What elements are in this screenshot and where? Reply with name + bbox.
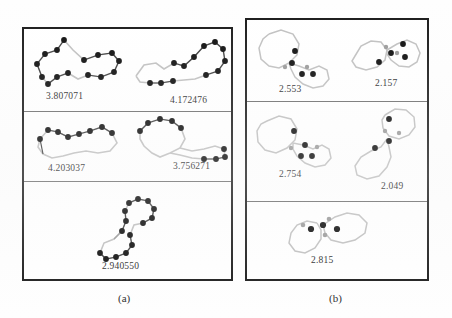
molecule-value-b5: 2.815 [311,255,333,265]
molecule-value-b4: 2.049 [381,181,403,191]
panel-a-divider-1 [24,111,231,112]
panel-b-divider-2 [247,201,427,202]
panel-caption-a: (a) [118,292,130,304]
panel-a: 3.807071 [22,27,233,281]
molecule-cell-b4: 2.049 [341,103,427,201]
molecule-cell-a5: 2.940550 [26,183,233,279]
molecule-value-a4: 3.756271 [173,161,210,171]
panel-b-divider-1 [247,101,427,102]
molecule-cell-a4: 3.756271 [130,113,233,181]
molecule-diagram-b5 [249,203,427,278]
molecule-value-a2: 4.172476 [170,95,207,105]
molecule-cell-b5: 2.815 [249,203,427,278]
panel-caption-b: (b) [329,292,342,304]
panel-a-divider-2 [24,181,231,182]
molecule-cell-b2: 2.157 [341,22,427,101]
molecule-value-a3: 4.203037 [48,163,85,173]
panel-a-content: 3.807071 [24,29,231,279]
molecule-cell-b3: 2.754 [249,103,341,201]
molecule-diagram-b2 [341,22,427,101]
molecule-value-b3: 2.754 [279,169,301,179]
molecule-diagram-b3 [249,103,341,201]
molecule-cell-a3: 4.203037 [26,113,130,181]
molecule-value-a1: 3.807071 [46,91,83,101]
molecule-cell-b1: 2.553 [249,22,341,101]
molecule-cell-a2: 4.172476 [130,31,233,111]
molecule-value-b2: 2.157 [375,78,397,88]
molecule-cell-a1: 3.807071 [26,31,130,111]
molecule-value-b1: 2.553 [279,84,301,94]
panel-b: 2.553 2. [245,18,429,281]
panel-b-content: 2.553 2. [247,20,427,279]
figure-root: 3.807071 [0,0,452,318]
molecule-value-a5: 2.940550 [102,261,139,271]
